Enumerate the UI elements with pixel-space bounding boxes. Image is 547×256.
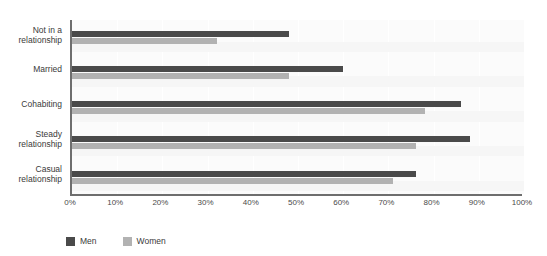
category-axis-labels: Not in arelationshipMarriedCohabitingSte…	[0, 22, 66, 192]
x-tick-label: 30%	[198, 198, 214, 207]
chart-legend: MenWomen	[66, 234, 166, 248]
legend-item-men[interactable]: Men	[66, 236, 97, 246]
category-label: Steadyrelationship	[0, 129, 62, 149]
x-axis-tick-labels: 0%10%20%30%40%50%60%70%80%90%100%	[0, 198, 547, 212]
plot-area	[70, 20, 524, 194]
x-tick-label: 100%	[512, 198, 532, 207]
x-tick-label: 80%	[424, 198, 440, 207]
x-tick-label: 10%	[107, 198, 123, 207]
bar-men	[72, 136, 470, 142]
bar-women	[72, 143, 416, 149]
legend-label: Women	[137, 236, 166, 246]
bar-men	[72, 66, 343, 72]
x-tick-label: 60%	[333, 198, 349, 207]
x-tick-label: 90%	[469, 198, 485, 207]
legend-item-women[interactable]: Women	[123, 236, 166, 246]
bar-women	[72, 108, 425, 114]
x-tick-label: 0%	[64, 198, 76, 207]
category-label: Casualrelationship	[0, 164, 62, 184]
bar-chart: Not in arelationshipMarriedCohabitingSte…	[0, 0, 547, 256]
bar-women	[72, 38, 217, 44]
x-tick-label: 70%	[378, 198, 394, 207]
bar-men	[72, 171, 416, 177]
x-tick-label: 50%	[288, 198, 304, 207]
legend-swatch-men	[66, 237, 75, 246]
bar-women	[72, 73, 289, 79]
bar-women	[72, 178, 393, 184]
category-label: Not in arelationship	[0, 25, 62, 45]
chart-title-clipped	[0, 0, 547, 4]
legend-swatch-women	[123, 237, 132, 246]
x-axis-line	[70, 194, 522, 196]
gridline	[524, 20, 525, 194]
category-label: Married	[0, 64, 62, 74]
bar-men	[72, 101, 461, 107]
bar-men	[72, 31, 289, 37]
x-tick-label: 20%	[152, 198, 168, 207]
x-tick-label: 40%	[243, 198, 259, 207]
legend-label: Men	[80, 236, 97, 246]
category-label: Cohabiting	[0, 99, 62, 109]
